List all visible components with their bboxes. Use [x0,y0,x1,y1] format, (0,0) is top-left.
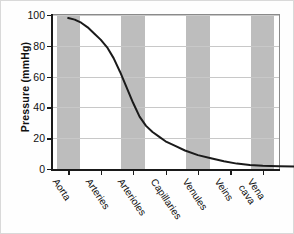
pressure-curve [52,15,279,169]
x-label-line: Venules [180,177,209,212]
y-tick-label-20: 20 [33,133,45,144]
y-tick-label-0: 0 [39,164,45,175]
x-tick-mark-venules [198,170,199,175]
y-tick-mark-0 [47,169,52,170]
x-label-vena-cava: Venacava [236,177,266,208]
y-tick-label-60: 60 [33,71,45,82]
x-label-veins: Veins [213,177,235,203]
x-tick-mark-veins [230,170,231,175]
x-tick-mark-arterioles [133,170,134,175]
pressure-chart-figure: Pressure (mmHg) 020406080100 AortaArteri… [0,0,294,234]
x-label-line: Capillaries [148,177,183,222]
x-tick-mark-vena-cava [263,170,264,175]
plot-right-border [279,14,280,170]
y-tick-label-40: 40 [33,102,45,113]
x-label-line: Veins [213,177,235,203]
x-label-arteries: Arteries [83,177,111,211]
y-tick-label-80: 80 [33,41,45,52]
x-tick-mark-aorta [68,170,69,175]
x-label-line: Arterioles [115,177,147,218]
y-axis-title: Pressure (mmHg) [19,12,31,162]
x-label-aorta: Aorta [50,177,72,203]
plot-area: 020406080100 [52,15,279,169]
y-tick-label-100: 100 [27,10,45,21]
x-label-arterioles: Arterioles [115,177,147,218]
x-tick-mark-arteries [101,170,102,175]
x-tick-mark-capillaries [166,170,167,175]
x-axis-category-labels: AortaArteriesArteriolesCapillariesVenule… [52,177,279,234]
x-label-line: Arteries [83,177,111,211]
x-label-capillaries: Capillaries [148,177,183,222]
x-label-line: Aorta [50,177,72,203]
x-label-venules: Venules [180,177,209,212]
